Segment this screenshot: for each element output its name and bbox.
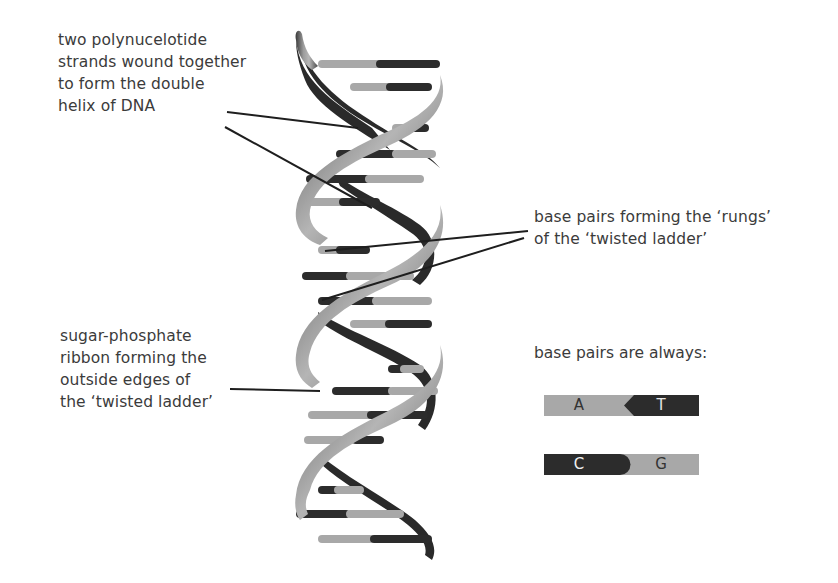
- sugar-phosphate-label-line: ribbon forming the: [60, 347, 213, 369]
- legend-pair-cg: C G: [544, 454, 699, 475]
- leader-line-sugar: [230, 389, 320, 391]
- strands-label-line: helix of DNA: [58, 95, 246, 117]
- base-pairs-label-line: base pairs forming the ‘rungs’: [534, 206, 771, 228]
- strands-label: two polynucelotide strands wound togethe…: [58, 29, 246, 117]
- sugar-phosphate-label-line: outside edges of: [60, 369, 213, 391]
- base-pairs-label-line: of the ‘twisted ladder’: [534, 228, 771, 250]
- base-a: A: [564, 395, 594, 416]
- sugar-phosphate-label: sugar-phosphate ribbon forming the outsi…: [60, 325, 213, 413]
- leader-line-strand-2: [225, 127, 372, 208]
- base-c: C: [564, 454, 594, 475]
- legend-title: base pairs are always:: [534, 344, 707, 362]
- base-t: T: [646, 395, 676, 416]
- sugar-phosphate-label-line: sugar-phosphate: [60, 325, 213, 347]
- legend-pair-at: A T: [544, 395, 699, 416]
- base-g: G: [646, 454, 676, 475]
- base-pairs-label: base pairs forming the ‘rungs’ of the ‘t…: [534, 206, 771, 250]
- strands-label-line: to form the double: [58, 73, 246, 95]
- strands-label-line: strands wound together: [58, 51, 246, 73]
- strands-label-line: two polynucelotide: [58, 29, 246, 51]
- sugar-phosphate-label-line: the ‘twisted ladder’: [60, 391, 213, 413]
